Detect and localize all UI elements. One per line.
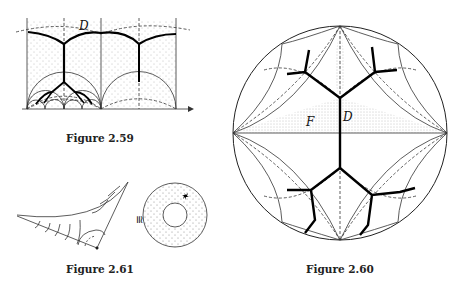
- fig259-label-d: D: [78, 19, 89, 33]
- caption-figure-2-60: Figure 2.60: [306, 263, 374, 275]
- caption-figure-2-59: Figure 2.59: [66, 132, 134, 144]
- fig261-congruent-symbol: ≅: [133, 215, 146, 224]
- fig261-drawing: [17, 182, 207, 249]
- fig260-label-d: D: [342, 110, 353, 124]
- caption-figure-2-61: Figure 2.61: [66, 263, 134, 275]
- fig259-drawing: [16, 18, 194, 112]
- fig260-label-f: F: [305, 115, 315, 129]
- fig260-drawing: [232, 26, 448, 240]
